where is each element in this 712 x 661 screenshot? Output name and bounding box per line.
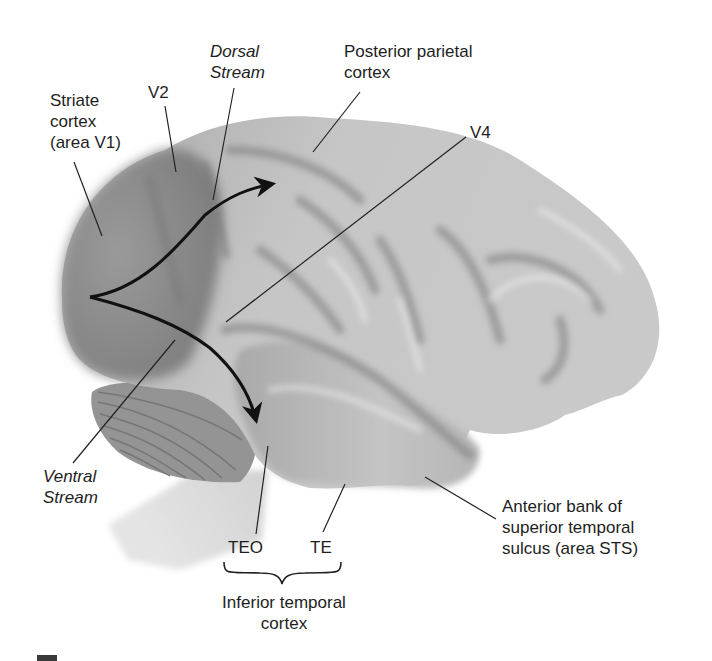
label-teo: TEO [228, 537, 263, 558]
label-line: Stream [210, 62, 265, 83]
label-line: (area V1) [50, 132, 121, 153]
label-line: Inferior temporal [204, 592, 364, 613]
scale-bar-mark [37, 655, 57, 661]
label-line: cortex [344, 62, 473, 83]
leader-sts [425, 477, 496, 519]
inferior-temporal-brace [224, 562, 341, 584]
label-te: TE [310, 537, 332, 558]
label-sts: Anterior bank of superior temporal sulcu… [502, 496, 638, 559]
label-striate-cortex: Striate cortex (area V1) [50, 90, 121, 153]
brain-visual-streams-figure: Striate cortex (area V1) V2 Dorsal Strea… [0, 0, 712, 661]
label-ventral-stream: Ventral Stream [43, 466, 98, 508]
label-line: Ventral [43, 466, 98, 487]
label-dorsal-stream: Dorsal Stream [210, 41, 265, 83]
label-line: Posterior parietal [344, 41, 473, 62]
label-line: Anterior bank of [502, 496, 638, 517]
label-line: Dorsal [210, 41, 265, 62]
label-posterior-parietal-cortex: Posterior parietal cortex [344, 41, 473, 83]
label-line: Stream [43, 487, 98, 508]
label-line: cortex [50, 111, 121, 132]
label-line: Striate [50, 90, 121, 111]
label-v4: V4 [470, 122, 491, 143]
label-v2: V2 [148, 82, 169, 103]
label-inferior-temporal-cortex: Inferior temporal cortex [204, 592, 364, 634]
leader-te [323, 484, 345, 532]
label-line: cortex [204, 613, 364, 634]
label-line: sulcus (area STS) [502, 538, 638, 559]
label-line: superior temporal [502, 517, 638, 538]
